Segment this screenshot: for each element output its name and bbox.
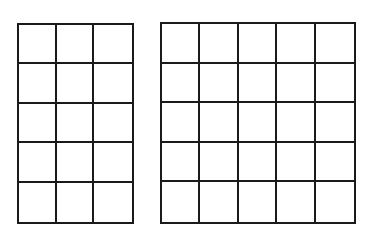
grid-cell <box>316 64 354 104</box>
grid-cell <box>94 143 132 182</box>
grid-cell <box>277 143 315 183</box>
grid-cell <box>57 25 95 64</box>
grid-cell <box>316 182 354 222</box>
grid-cell <box>57 104 95 143</box>
grid-cell <box>239 143 277 183</box>
grid-cell <box>277 24 315 64</box>
grid-cell <box>162 24 200 64</box>
grid-cell <box>57 143 95 182</box>
grid-cell <box>94 104 132 143</box>
grid-cell <box>200 103 238 143</box>
grid-cell <box>316 143 354 183</box>
grid-cell <box>316 24 354 64</box>
grid-cell <box>239 103 277 143</box>
grid-cell <box>239 24 277 64</box>
grid-cell <box>19 143 57 182</box>
grid-cell <box>19 183 57 222</box>
grid-cell <box>162 182 200 222</box>
grid-cell <box>200 64 238 104</box>
grid-cell <box>94 64 132 103</box>
grid-cell <box>94 183 132 222</box>
grid-cell <box>277 103 315 143</box>
grid-cell <box>94 25 132 64</box>
grid-5-columns-5-rows <box>160 22 356 224</box>
grid-3-columns-5-rows <box>17 23 134 224</box>
grid-cell <box>19 64 57 103</box>
grid-cell <box>162 103 200 143</box>
grid-cell <box>239 182 277 222</box>
grid-cell <box>277 182 315 222</box>
grid-cell <box>162 64 200 104</box>
grid-cell <box>162 143 200 183</box>
grid-cell <box>200 143 238 183</box>
grid-cell <box>316 103 354 143</box>
grid-cell <box>19 104 57 143</box>
grid-cell <box>57 183 95 222</box>
grid-cell <box>200 182 238 222</box>
grid-cell <box>277 64 315 104</box>
grid-cell <box>19 25 57 64</box>
grid-cell <box>200 24 238 64</box>
grid-cell <box>57 64 95 103</box>
grid-cell <box>239 64 277 104</box>
